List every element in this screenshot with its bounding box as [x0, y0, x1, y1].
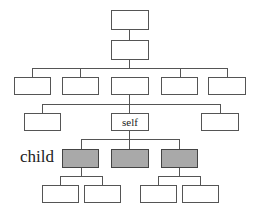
- level3-node: [14, 77, 51, 95]
- connector: [42, 104, 221, 105]
- level3-node: [111, 77, 149, 95]
- connector: [220, 104, 221, 113]
- grandchild-node: [84, 185, 121, 203]
- grandchild-node: [42, 185, 79, 203]
- connector: [80, 68, 81, 77]
- connector: [158, 176, 159, 185]
- child-row-label: child: [20, 147, 54, 167]
- connector: [179, 167, 180, 176]
- sibling-node: [201, 113, 239, 131]
- grandchild-node: [140, 185, 177, 203]
- connector: [158, 176, 201, 177]
- connector: [179, 139, 180, 149]
- connector: [200, 176, 201, 185]
- self-node: self: [111, 113, 149, 131]
- connector: [81, 139, 180, 140]
- level3-node: [161, 77, 198, 95]
- connector: [102, 176, 103, 185]
- connector: [180, 68, 181, 77]
- connector: [42, 104, 43, 113]
- child-node: [161, 149, 198, 168]
- level3-node: [62, 77, 99, 95]
- sibling-node: [24, 113, 61, 131]
- connector: [32, 68, 228, 69]
- parent-node: [111, 40, 149, 60]
- connector: [32, 68, 33, 77]
- child-node: [62, 149, 99, 168]
- connector: [60, 176, 61, 185]
- child-node: [111, 149, 149, 168]
- connector: [60, 176, 103, 177]
- connector: [227, 68, 228, 77]
- self-label: self: [122, 116, 138, 128]
- grandchild-node: [182, 185, 219, 203]
- connector: [129, 59, 130, 68]
- connector: [81, 139, 82, 149]
- root-node: [111, 10, 149, 30]
- connector: [129, 29, 130, 40]
- connector: [81, 167, 82, 176]
- level3-node: [208, 77, 246, 95]
